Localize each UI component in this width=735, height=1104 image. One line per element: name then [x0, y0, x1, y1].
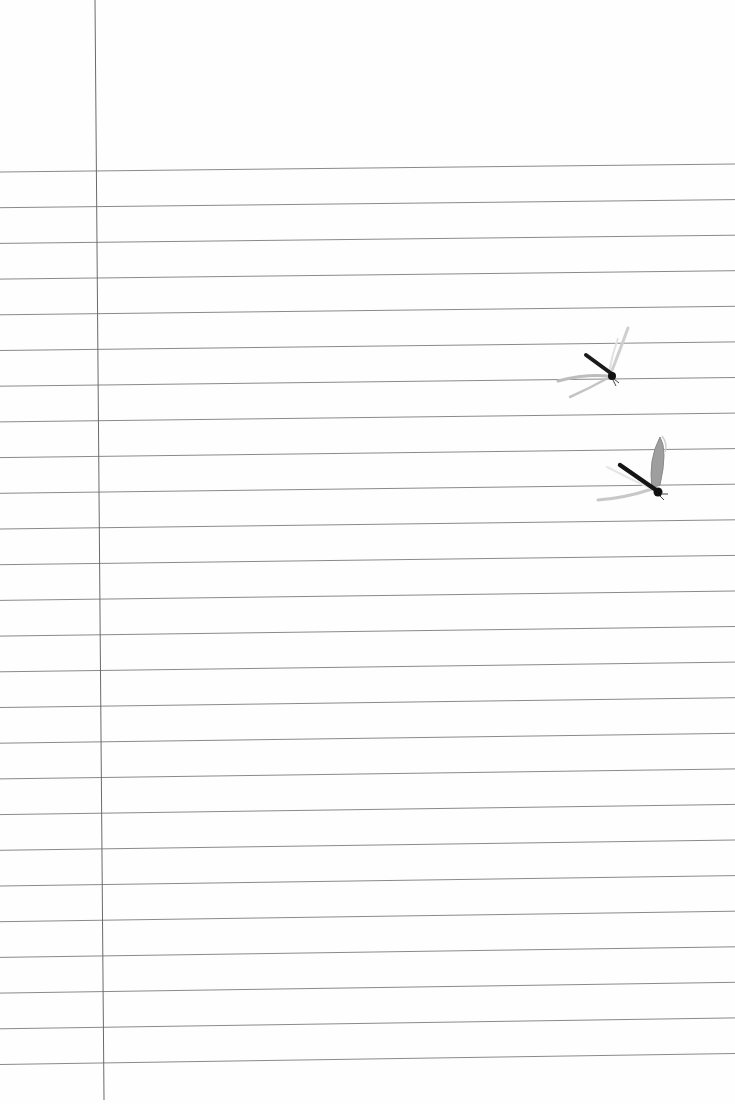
dragonfly-upper-icon [558, 328, 628, 397]
dragonfly-lower-icon [598, 436, 668, 500]
dragonflies [0, 0, 735, 1104]
lined-paper [0, 0, 735, 1104]
